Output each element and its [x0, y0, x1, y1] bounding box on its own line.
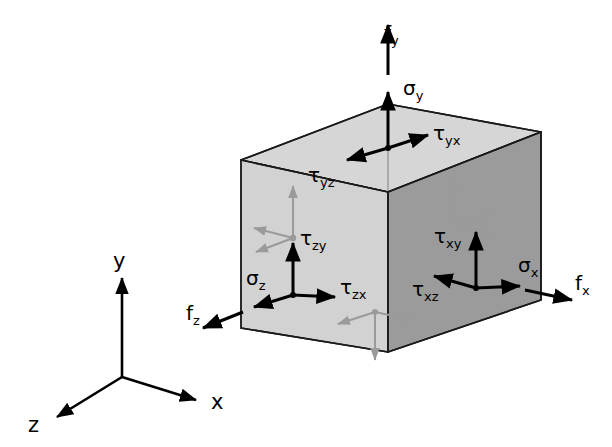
sigma-x-arrow: [476, 286, 520, 288]
label-f-x: fx: [575, 271, 590, 298]
label-tau-yz-base: τ: [308, 163, 320, 187]
label-sigma-x-base: σ: [518, 253, 531, 277]
label-axis-x: x: [211, 390, 223, 414]
stress-cube-figure: fy σy τyz τyx τzy τzx σz fz: [0, 0, 612, 447]
label-f-y: fy: [384, 21, 399, 48]
label-sigma-z-sub: z: [259, 278, 266, 293]
label-tau-zy-base: τ: [300, 226, 312, 250]
label-axis-z: z: [28, 413, 39, 437]
f-z-arrow: [203, 312, 243, 328]
label-tau-zx-base: τ: [340, 275, 352, 299]
label-sigma-z-base: σ: [246, 266, 259, 290]
left-face-origin-dot: [290, 292, 296, 298]
label-tau-zy-sub: zy: [312, 238, 327, 253]
label-f-z-sub: z: [193, 313, 200, 328]
ghost-origin-dot-left: [290, 235, 296, 241]
label-tau-xy-sub: xy: [446, 236, 462, 251]
label-tau-yx-base: τ: [433, 121, 445, 145]
label-f-y-sub: y: [391, 33, 399, 48]
tau-zx-arrow: [293, 295, 335, 297]
axis-z-arrow: [57, 377, 122, 417]
label-f-z: fz: [186, 301, 200, 328]
cube-left-face: [241, 160, 388, 352]
label-tau-xz-sub: xz: [424, 289, 439, 304]
stress-cube-diagram: fy σy τyz τyx τzy τzx σz fz: [0, 0, 612, 447]
label-sigma-y-sub: y: [416, 88, 424, 103]
label-axis-y: y: [113, 249, 125, 273]
label-sigma-y-base: σ: [403, 76, 416, 100]
label-sigma-x-sub: x: [531, 265, 539, 280]
axis-x-arrow: [122, 377, 196, 400]
label-tau-yz-sub: yz: [320, 175, 335, 190]
ghost-origin-dot-bottom: [372, 309, 378, 315]
label-tau-xz-base: τ: [412, 277, 424, 301]
label-f-x-sub: x: [582, 283, 590, 298]
coordinate-axes: [57, 278, 196, 417]
ghost-origin-dot-right: [451, 219, 457, 225]
right-face-origin-dot: [473, 285, 479, 291]
label-sigma-y: σy: [403, 76, 424, 103]
label-tau-xy-base: τ: [434, 224, 446, 248]
label-tau-zx-sub: zx: [352, 287, 367, 302]
label-tau-yx-sub: yx: [445, 133, 461, 148]
top-face-origin-dot: [385, 145, 391, 151]
